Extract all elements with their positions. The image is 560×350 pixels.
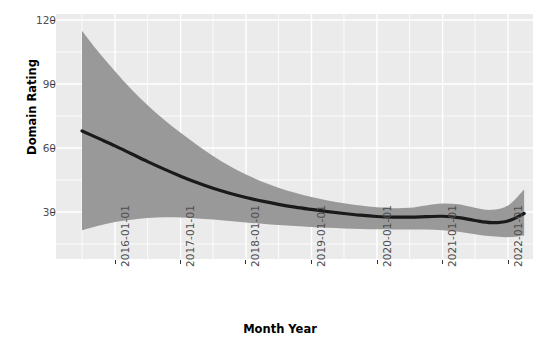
x-tick-mark-2021 <box>442 260 443 264</box>
x-tick-mark-2016 <box>115 260 116 264</box>
x-tick-label-2022: 2022-01-01 <box>512 205 524 267</box>
x-tick-mark-2018 <box>245 260 246 264</box>
x-tick-label-2017: 2017-01-01 <box>184 205 196 267</box>
x-tick-mark-2017 <box>180 260 181 264</box>
x-tick-mark-2022 <box>508 260 509 264</box>
x-tick-label-2019: 2019-01-01 <box>315 205 327 267</box>
x-axis-title: Month Year <box>0 322 560 336</box>
domain-rating-chart: 120 90 60 30 Domain Rating 2016-01-01 20… <box>0 0 560 350</box>
x-tick-mark-2019 <box>311 260 312 264</box>
x-tick-label-2020: 2020-01-01 <box>381 205 393 267</box>
x-tick-mark-2020 <box>377 260 378 264</box>
x-tick-label-2021: 2021-01-01 <box>446 205 458 267</box>
x-tick-label-2016: 2016-01-01 <box>119 205 131 267</box>
x-tick-label-2018: 2018-01-01 <box>249 205 261 267</box>
x-axis: 2016-01-01 2017-01-01 2018-01-01 2019-01… <box>0 0 560 350</box>
